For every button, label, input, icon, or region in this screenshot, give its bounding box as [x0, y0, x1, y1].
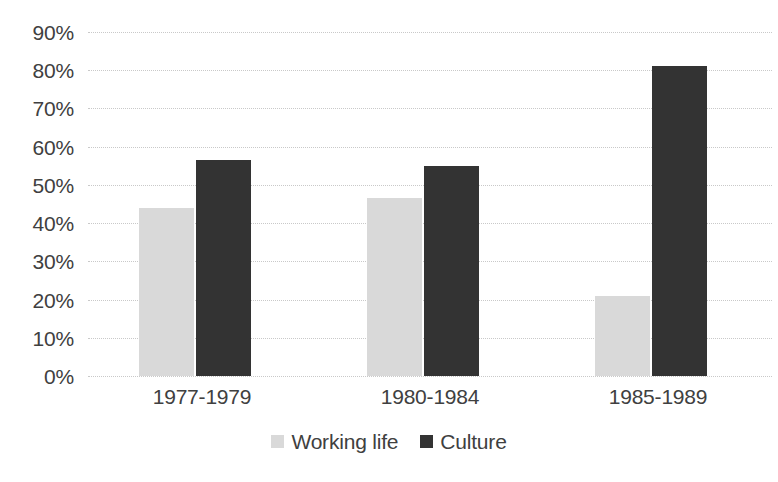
legend-swatch-icon: [271, 435, 284, 448]
y-tick-label: 70%: [0, 98, 74, 119]
bars-layer: [88, 32, 772, 376]
y-tick-label: 60%: [0, 136, 74, 157]
y-tick-label: 40%: [0, 213, 74, 234]
bar-group: [316, 32, 544, 376]
bar-group: [88, 32, 316, 376]
bar: [595, 296, 650, 376]
bar: [652, 66, 707, 376]
legend-label: Culture: [440, 431, 506, 452]
y-tick-label: 50%: [0, 174, 74, 195]
y-tick-label: 90%: [0, 22, 74, 43]
gridline: [88, 376, 772, 377]
y-axis: 90%80%70%60%50%40%30%20%10%0%: [0, 0, 82, 482]
legend-swatch-icon: [420, 435, 433, 448]
plot-area: [88, 32, 772, 376]
y-tick-label: 10%: [0, 327, 74, 348]
y-tick-label: 30%: [0, 251, 74, 272]
x-axis: 1977-19791980-19841985-1989: [88, 380, 772, 414]
y-tick-label: 20%: [0, 289, 74, 310]
bar: [196, 160, 251, 376]
bar-group: [544, 32, 772, 376]
legend-label: Working life: [291, 431, 398, 452]
x-tick-label: 1985-1989: [551, 380, 765, 414]
x-tick-label: 1980-1984: [323, 380, 537, 414]
bar-chart: 90%80%70%60%50%40%30%20%10%0% 1977-19791…: [0, 0, 778, 482]
x-tick-label: 1977-1979: [95, 380, 309, 414]
bar: [139, 208, 194, 376]
chart-legend: Working lifeCulture: [0, 426, 778, 456]
bar: [367, 198, 422, 376]
y-tick-label: 80%: [0, 60, 74, 81]
bar: [424, 166, 479, 376]
y-tick-label: 0%: [0, 366, 74, 387]
legend-item[interactable]: Working life: [271, 431, 398, 452]
legend-item[interactable]: Culture: [420, 431, 506, 452]
